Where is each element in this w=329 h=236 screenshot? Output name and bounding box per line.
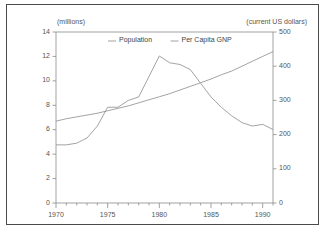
ytick-label-left: 10 <box>28 76 50 83</box>
series-line-1 <box>56 52 273 122</box>
ytick-label-right: 400 <box>279 62 305 69</box>
xtick-label: 1970 <box>41 211 71 218</box>
ytick-label-left: 12 <box>28 52 50 59</box>
xtick-label: 1985 <box>196 211 226 218</box>
legend-label-1: Population <box>119 36 152 43</box>
ytick-label-left: 6 <box>28 125 50 132</box>
series-line-2 <box>56 56 273 145</box>
ytick-label-left: 4 <box>28 150 50 157</box>
ytick-label-right: 100 <box>279 164 305 171</box>
xtick-label: 1990 <box>248 211 278 218</box>
legend-label-2: Per Capita GNP <box>182 36 232 43</box>
ytick-label-left: 2 <box>28 174 50 181</box>
ytick-label-left: 0 <box>28 199 50 206</box>
axes-group <box>56 32 273 203</box>
ytick-label-right: 300 <box>279 96 305 103</box>
xtick-label: 1975 <box>93 211 123 218</box>
series-group <box>56 52 273 145</box>
ytick-label-right: 200 <box>279 130 305 137</box>
ytick-label-left: 14 <box>28 28 50 35</box>
chart-container: (millions) (current US dollars) 02468101… <box>0 0 329 236</box>
ytick-label-right: 0 <box>279 199 305 206</box>
xtick-label: 1980 <box>144 211 174 218</box>
ytick-label-left: 8 <box>28 101 50 108</box>
ticks-group <box>53 32 277 208</box>
ytick-label-right: 500 <box>279 28 305 35</box>
